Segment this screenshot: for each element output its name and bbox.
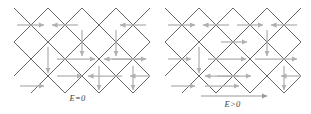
arrow-group-right: [168, 25, 301, 90]
panel-e-equals-zero: E=0: [0, 0, 155, 114]
lattice-svg-right: [155, 0, 310, 114]
arrow-group-left: [17, 25, 150, 90]
panel-e-greater-than-zero: E>0: [155, 0, 310, 114]
panel-label-e-greater-than-zero: E>0: [155, 99, 310, 109]
lattice-figure: E=0: [0, 0, 311, 114]
panel-label-e-equals-zero: E=0: [0, 93, 155, 103]
lattice-grid-right: [165, 8, 301, 93]
